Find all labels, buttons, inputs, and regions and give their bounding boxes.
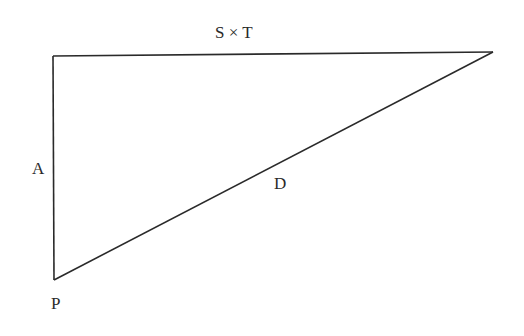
hypotenuse <box>54 52 493 280</box>
triangle-diagram <box>0 0 524 336</box>
label-bottom-vertex: P <box>51 295 60 312</box>
label-top-side: S × T <box>215 24 253 41</box>
label-hypotenuse: D <box>274 175 286 192</box>
label-left-side: A <box>32 160 44 177</box>
left-side <box>53 56 54 280</box>
top-side <box>53 52 493 56</box>
